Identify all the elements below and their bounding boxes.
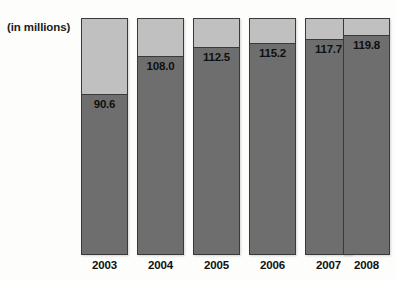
bar-value-label: 108.0 — [137, 60, 184, 72]
bar-segment-value — [194, 47, 239, 254]
bar-column — [81, 18, 128, 255]
stacked-bar-chart: (in millions) 90.62003108.02004112.52005… — [0, 0, 396, 281]
bar-group — [343, 18, 390, 255]
bar-value-label: 90.6 — [81, 98, 128, 110]
bar-group — [81, 18, 128, 255]
x-axis-year-label: 2008 — [343, 259, 390, 271]
bar-value-label: 115.2 — [249, 47, 296, 59]
bar-column — [137, 18, 184, 255]
x-axis-year-label: 2004 — [137, 259, 184, 271]
x-axis-year-label: 2005 — [193, 259, 240, 271]
bar-segment-value — [138, 56, 183, 254]
bar-value-label: 119.8 — [343, 39, 390, 51]
bar-segment-value — [250, 43, 295, 254]
bar-column — [343, 18, 390, 255]
plot-area: 90.62003108.02004112.52005115.22006117.7… — [0, 0, 396, 281]
bar-value-label: 112.5 — [193, 51, 240, 63]
bar-segment-value — [344, 35, 389, 254]
x-axis-year-label: 2006 — [249, 259, 296, 271]
x-axis-year-label: 2003 — [81, 259, 128, 271]
bar-segment-value — [82, 94, 127, 254]
bar-group — [137, 18, 184, 255]
